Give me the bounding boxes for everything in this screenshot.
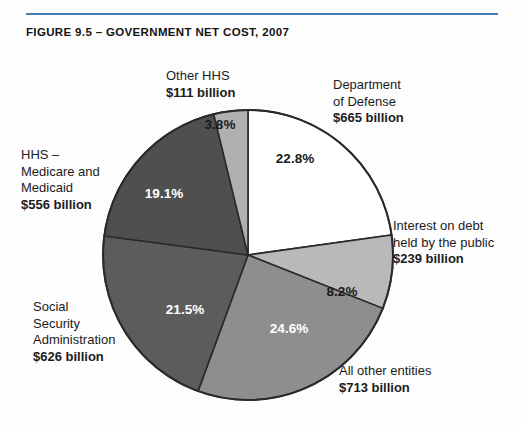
callout-dod-line1: Department [333,77,404,94]
pie-slice-dod[interactable] [248,110,392,255]
callout-hhsmm-line3: Medicaid [21,180,100,197]
callout-department-of-defense: Department of Defense $665 billion [333,77,404,127]
callout-interest-line2: held by the public [393,235,494,252]
slice-label-hhs-medicare-medicaid: 19.1% [145,186,183,201]
callout-ssa-value: $626 billion [33,349,115,366]
figure-title: FIGURE 9.5 – GOVERNMENT NET COST, 2007 [26,26,289,38]
callout-other-hhs-value: $111 billion [166,85,235,102]
pie-chart: 22.8% 8.2% 24.6% 21.5% 19.1% 3.8% Other … [0,45,526,425]
callout-other-hhs-line1: Other HHS [166,68,235,85]
figure-container: FIGURE 9.5 – GOVERNMENT NET COST, 2007 2… [0,0,526,425]
slice-label-dod: 22.8% [276,151,314,166]
callout-all-other-entities: All other entities $713 billion [339,363,432,396]
callout-interest-line1: Interest on debt [393,218,494,235]
callout-ssa-line1: Social [33,299,115,316]
figure-top-rule [26,13,498,15]
callout-social-security-administration: Social Security Administration $626 bill… [33,299,115,365]
callout-dod-line2: of Defense [333,94,404,111]
callout-hhs-medicare-medicaid: HHS – Medicare and Medicaid $556 billion [21,147,100,213]
callout-dod-value: $665 billion [333,110,404,127]
callout-all-other-line1: All other entities [339,363,432,380]
callout-hhsmm-value: $556 billion [21,197,100,214]
callout-other-hhs: Other HHS $111 billion [166,68,235,101]
callout-all-other-value: $713 billion [339,380,432,397]
callout-hhsmm-line1: HHS – [21,147,100,164]
slice-label-other-hhs: 3.8% [205,117,236,132]
slice-label-all-other: 24.6% [270,321,308,336]
callout-ssa-line3: Administration [33,332,115,349]
callout-ssa-line2: Security [33,316,115,333]
callout-interest-value: $239 billion [393,251,494,268]
callout-hhsmm-line2: Medicare and [21,164,100,181]
slice-label-ssa: 21.5% [166,302,204,317]
slice-label-interest: 8.2% [327,284,358,299]
callout-interest-on-debt: Interest on debt held by the public $239… [393,218,494,268]
